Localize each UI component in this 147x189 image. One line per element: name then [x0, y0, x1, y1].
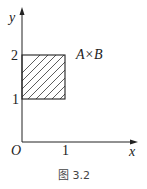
- y-axis-arrow-icon: [20, 7, 25, 15]
- figure-caption: 图 3.2: [58, 169, 90, 182]
- x-axis-label: x: [128, 144, 136, 159]
- region-label: A×B: [75, 47, 103, 62]
- x-axis: [22, 140, 138, 145]
- y-tick-2: 2: [11, 48, 18, 63]
- y-tick-1: 1: [12, 92, 19, 107]
- diagram-canvas: y 2 1 O 1 x A×B 图 3.2: [0, 0, 147, 189]
- x-tick-1: 1: [62, 143, 69, 158]
- origin-label: O: [11, 143, 21, 158]
- y-axis-label: y: [7, 10, 16, 25]
- y-axis: [20, 7, 25, 142]
